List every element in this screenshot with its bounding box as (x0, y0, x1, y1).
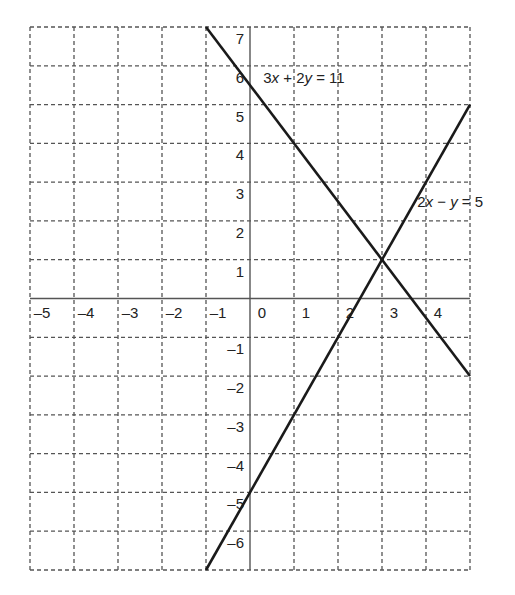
equation-label-1: 3x + 2y = 11 (263, 69, 344, 86)
axes (30, 27, 470, 570)
y-tick-label: 7 (236, 30, 244, 47)
y-tick-label: 1 (236, 263, 244, 280)
x-tick-label: –4 (78, 304, 95, 321)
y-tick-label: 3 (236, 185, 244, 202)
y-tick-label: 4 (236, 146, 244, 163)
y-tick-label: 5 (236, 108, 244, 125)
x-tick-label: 4 (434, 304, 442, 321)
x-axis-tick-labels: –5–4–3–2–101234 (34, 304, 443, 321)
x-tick-label: 3 (390, 304, 398, 321)
x-tick-label: 1 (302, 304, 310, 321)
x-tick-label: –5 (34, 304, 51, 321)
y-tick-label: –4 (227, 457, 244, 474)
x-tick-label: –1 (210, 304, 227, 321)
y-tick-label: –1 (227, 340, 244, 357)
y-tick-label: –3 (227, 418, 244, 435)
y-tick-label: –2 (227, 379, 244, 396)
x-tick-label: –2 (166, 304, 183, 321)
x-tick-label: 0 (258, 304, 266, 321)
x-tick-label: –3 (122, 304, 139, 321)
y-axis-tick-labels: 7654321–1–2–3–4–5–6 (227, 30, 244, 551)
y-tick-label: 2 (236, 224, 244, 241)
graph-plot: –5–4–3–2–101234 7654321–1–2–3–4–5–6 3x +… (0, 0, 515, 595)
equation-label-2: 2x − y = 5 (417, 193, 483, 210)
y-tick-label: –6 (227, 534, 244, 551)
